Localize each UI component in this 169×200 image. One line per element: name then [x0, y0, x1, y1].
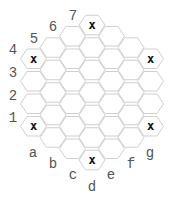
row-label-5: 5 [30, 31, 38, 47]
x-mark-g1: x [147, 119, 154, 133]
column-label-d: d [88, 179, 96, 195]
column-label-b: b [49, 156, 57, 172]
row-label-4: 4 [9, 42, 17, 58]
row-label-2: 2 [9, 88, 17, 104]
row-label-1: 1 [9, 110, 17, 126]
column-label-g: g [146, 145, 154, 161]
column-label-c: c [69, 167, 77, 183]
hex-cells [21, 15, 164, 170]
x-mark-a1: x [30, 119, 37, 133]
hex-board: xxxxxx 1234567 abcdefg [0, 0, 169, 200]
row-label-7: 7 [69, 8, 77, 24]
column-label-f: f [127, 156, 135, 172]
x-mark-d1: x [88, 153, 95, 167]
row-label-6: 6 [49, 19, 57, 35]
column-label-a: a [29, 145, 37, 161]
column-label-e: e [107, 167, 115, 183]
row-label-3: 3 [9, 65, 17, 81]
x-mark-a4: x [30, 52, 37, 66]
x-mark-g4: x [147, 52, 154, 66]
x-mark-d7: x [88, 18, 95, 32]
